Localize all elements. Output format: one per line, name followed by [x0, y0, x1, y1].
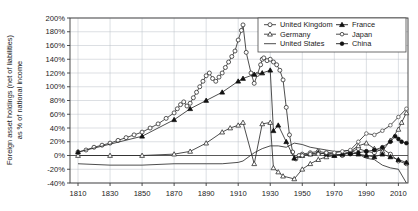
data-point — [356, 151, 360, 155]
data-point — [300, 154, 304, 158]
data-point — [396, 137, 400, 141]
x-axis-tick-label: 2010 — [390, 189, 407, 198]
data-point — [340, 32, 344, 36]
y-axis-tick-label: 140% — [46, 55, 66, 64]
data-point — [195, 90, 199, 94]
data-point — [207, 71, 211, 75]
data-point — [239, 28, 243, 32]
x-axis-tick-label: 1910 — [230, 189, 247, 198]
data-point — [275, 63, 279, 67]
x-axis-tick-label: 1890 — [198, 189, 215, 198]
y-axis-tick-label: 40% — [50, 124, 65, 133]
data-point — [217, 75, 221, 79]
data-point — [220, 71, 224, 75]
data-point — [268, 23, 272, 27]
data-point — [287, 133, 291, 137]
data-point — [233, 49, 237, 53]
y-axis-tick-label: 60% — [50, 110, 65, 119]
foreign-asset-holdings-chart: 200%180%160%140%120%100%80%60%40%20%0%-2… — [0, 0, 418, 211]
data-point — [182, 100, 186, 104]
x-axis-tick-label: 1990 — [358, 189, 375, 198]
data-point — [164, 116, 168, 120]
data-point — [236, 38, 240, 42]
data-point — [281, 78, 285, 82]
y-axis-tick-label: 100% — [46, 82, 66, 91]
y-axis-tick-label: 20% — [50, 137, 65, 146]
y-axis-title-line1: Foreign asset holdings (net of liabiliti… — [5, 35, 14, 165]
legend-label: France — [352, 20, 375, 29]
y-axis-tick-label: 160% — [46, 41, 66, 50]
y-axis-tick-label: -20% — [47, 165, 65, 174]
data-point — [404, 141, 408, 145]
y-axis-tick-label: -40% — [47, 179, 65, 188]
data-point — [364, 149, 368, 153]
data-point — [175, 107, 179, 111]
data-point — [124, 136, 128, 140]
data-point — [365, 132, 369, 136]
data-point — [223, 66, 227, 70]
legend-label: Germany — [280, 30, 311, 39]
y-axis-tick-label: 80% — [50, 96, 65, 105]
data-point — [132, 133, 136, 137]
legend-label: United States — [280, 39, 325, 48]
x-axis-tick-label: 1850 — [134, 189, 151, 198]
data-point — [380, 145, 384, 149]
y-axis-tick-label: 180% — [46, 27, 66, 36]
data-point — [393, 134, 397, 138]
chart-figure: 200%180%160%140%120%100%80%60%40%20%0%-2… — [0, 0, 418, 211]
legend-label: United Kingdom — [280, 20, 333, 29]
data-point — [357, 140, 361, 144]
x-axis-tick-label: 1830 — [102, 189, 119, 198]
data-point — [340, 42, 344, 46]
data-point — [244, 50, 248, 54]
data-point — [191, 96, 195, 100]
data-point — [388, 140, 392, 144]
x-axis-tick-label: 1950 — [294, 189, 311, 198]
data-point — [389, 123, 393, 127]
x-axis-tick-label: 1930 — [262, 189, 279, 198]
data-point — [333, 151, 337, 155]
data-point — [148, 126, 152, 130]
y-axis-tick-label: 200% — [46, 14, 66, 23]
y-axis-tick-label: 120% — [46, 69, 66, 78]
x-axis-tick-label: 1810 — [70, 189, 87, 198]
data-point — [373, 133, 377, 137]
data-point — [284, 105, 288, 109]
data-point — [227, 60, 231, 64]
data-point — [381, 129, 385, 133]
data-point — [349, 148, 353, 152]
data-point — [230, 55, 234, 59]
data-point — [325, 151, 329, 155]
data-point — [308, 152, 312, 156]
data-point — [397, 115, 401, 119]
data-point — [400, 140, 404, 144]
data-point — [405, 107, 409, 111]
x-axis-tick-label: 1970 — [326, 189, 343, 198]
data-point — [188, 101, 192, 105]
data-point — [198, 85, 202, 89]
data-point — [252, 81, 256, 85]
data-point — [156, 122, 160, 126]
data-point — [316, 152, 320, 156]
y-axis-title-line2: as % of national income — [15, 61, 24, 139]
data-point — [172, 111, 176, 115]
legend-label: Japan — [352, 30, 372, 39]
data-point — [372, 148, 376, 152]
data-point — [201, 79, 205, 83]
legend-label: China — [352, 39, 372, 48]
y-axis-tick-label: 0% — [54, 151, 65, 160]
data-point — [278, 68, 282, 72]
data-point — [341, 150, 345, 154]
data-point — [259, 63, 263, 67]
data-point — [241, 23, 245, 27]
data-point — [214, 79, 218, 83]
data-point — [348, 152, 352, 156]
x-axis-tick-label: 1870 — [166, 189, 183, 198]
